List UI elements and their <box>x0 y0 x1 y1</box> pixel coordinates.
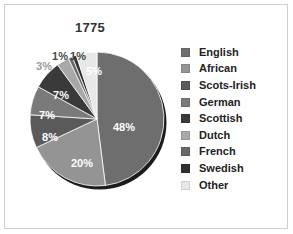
slice-percent-label: 7% <box>53 89 69 101</box>
legend-item-dutch[interactable]: Dutch <box>181 127 285 144</box>
legend-item-african[interactable]: African <box>181 61 285 78</box>
legend-item-other[interactable]: Other <box>181 177 285 194</box>
legend-item-scottish[interactable]: Scottish <box>181 110 285 127</box>
legend-swatch-icon <box>181 131 190 140</box>
legend-swatch-icon <box>181 114 190 123</box>
legend-swatch-icon <box>181 164 190 173</box>
legend-item-label: Scots-Irish <box>199 80 256 91</box>
legend-item-label: English <box>199 47 239 58</box>
legend-swatch-icon <box>181 181 190 190</box>
chart-legend: EnglishAfricanScots-IrishGermanScottishD… <box>181 44 285 193</box>
legend-item-swedish[interactable]: Swedish <box>181 160 285 177</box>
slice-percent-label: 48% <box>113 121 135 133</box>
legend-swatch-icon <box>181 48 190 57</box>
slice-percent-label: 1% <box>70 50 86 62</box>
legend-item-label: Other <box>199 180 228 191</box>
legend-swatch-icon <box>181 147 190 156</box>
slice-percent-label: 20% <box>71 157 93 169</box>
chart-canvas: 1775 48%20%8%7%7%3%1%1%5% EnglishAfrican… <box>0 0 293 234</box>
legend-item-scots-irish[interactable]: Scots-Irish <box>181 77 285 94</box>
slice-percent-label: 3% <box>36 60 52 72</box>
legend-item-french[interactable]: French <box>181 144 285 161</box>
legend-item-english[interactable]: English <box>181 44 285 61</box>
slice-percent-label: 1% <box>52 50 68 62</box>
legend-item-label: Dutch <box>199 130 230 141</box>
legend-item-label: Scottish <box>199 113 242 124</box>
slice-percent-label: 8% <box>42 131 58 143</box>
legend-swatch-icon <box>181 98 190 107</box>
slice-percent-label: 7% <box>39 109 55 121</box>
legend-item-german[interactable]: German <box>181 94 285 111</box>
legend-swatch-icon <box>181 81 190 90</box>
legend-item-label: German <box>199 97 241 108</box>
pie-plot-area: 48%20%8%7%7%3%1%1%5% <box>0 0 180 234</box>
legend-item-label: Swedish <box>199 163 244 174</box>
legend-item-label: African <box>199 63 237 74</box>
legend-item-label: French <box>199 146 236 157</box>
legend-swatch-icon <box>181 64 190 73</box>
pie-slice-english[interactable] <box>97 52 164 185</box>
slice-percent-label: 5% <box>86 65 102 77</box>
